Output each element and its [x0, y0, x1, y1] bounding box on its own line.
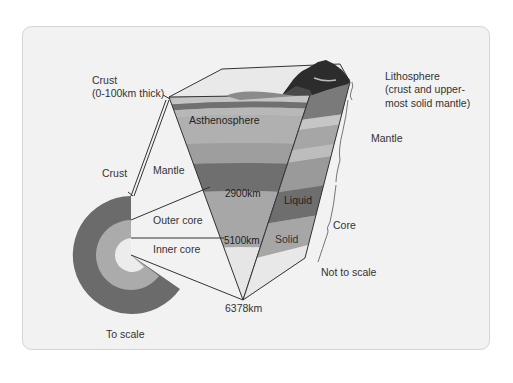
label-not-to-scale: Not to scale — [321, 266, 376, 279]
label-lithosphere: Lithosphere — [385, 70, 440, 83]
label-crust-thickness: (0-100km thick) — [92, 87, 164, 100]
label-inner-core: Inner core — [153, 243, 200, 256]
label-lithosphere-note-2: most solid mantle) — [385, 97, 470, 110]
label-mantle-left: Mantle — [153, 164, 185, 177]
label-solid: Solid — [275, 233, 298, 246]
label-liquid: Liquid — [284, 194, 312, 207]
label-crust-left: Crust — [102, 167, 127, 180]
label-depth-2900: 2900km — [225, 187, 261, 200]
label-core: Core — [333, 219, 356, 232]
label-depth-6378: 6378km — [225, 302, 262, 315]
label-outer-core: Outer core — [153, 214, 203, 227]
label-mantle-right: Mantle — [371, 132, 403, 145]
label-lithosphere-note-1: (crust and upper- — [385, 83, 465, 96]
label-crust-top: Crust — [92, 74, 117, 87]
label-depth-5100: 5100km — [224, 234, 260, 247]
label-asthenosphere: Asthenosphere — [189, 114, 260, 127]
label-to-scale: To scale — [106, 328, 145, 341]
